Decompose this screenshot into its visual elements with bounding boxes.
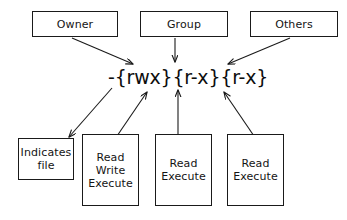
arrow-permission-to-indicates-file (69, 88, 112, 137)
box-read-execute-others-line-1: Read (241, 157, 269, 170)
arrow-others-to-permission (228, 38, 290, 64)
box-indicates-file-line-1: Indicates (21, 146, 72, 159)
box-group-label: Group (167, 18, 201, 31)
box-read-execute-group-line-1: Read (169, 157, 197, 170)
box-read-write-execute-line-3: Execute (88, 177, 133, 190)
arrow-owner-to-permission (72, 38, 133, 64)
box-group: Group (140, 11, 228, 37)
arrow-read-write-execute-to-permission (117, 92, 147, 136)
box-indicates-file-line-2: file (37, 159, 54, 172)
box-read-execute-others-line-2: Execute (233, 170, 278, 183)
box-read-execute-group-line-2: Execute (161, 170, 206, 183)
box-read-execute-others: Read Execute (227, 134, 284, 206)
arrow-read-execute-others-to-permission (224, 92, 254, 136)
box-read-write-execute: Read Write Execute (82, 134, 139, 206)
permission-string: -{rwx}{r-x}{r-x} (108, 68, 268, 87)
box-read-write-execute-line-2: Write (96, 164, 126, 177)
box-read-execute-group: Read Execute (155, 134, 212, 206)
box-others-label: Others (275, 18, 313, 31)
box-read-write-execute-line-1: Read (96, 151, 124, 164)
permission-diagram: Owner Group Others -{rwx}{r-x}{r-x} Indi… (0, 0, 347, 220)
box-owner: Owner (32, 11, 118, 37)
box-indicates-file: Indicates file (18, 138, 74, 180)
box-others: Others (250, 11, 338, 37)
box-owner-label: Owner (57, 18, 93, 31)
